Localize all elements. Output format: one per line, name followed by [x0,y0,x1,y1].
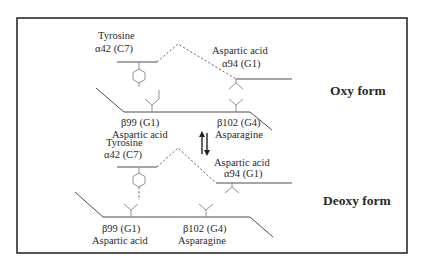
deoxy-form-label: Deoxy form [323,193,392,208]
deoxy-asp-alpha94-name: Aspartic acid [214,157,270,168]
oxy-form-label: Oxy form [330,83,387,98]
oxy-asp-alpha94-name: Aspartic acid [212,45,268,56]
deoxy-beta99-position: β99 (G1) [102,223,141,235]
oxy-beta99-position: β99 (G1) [121,117,160,129]
deoxy-beta99-name: Aspartic acid [92,235,148,246]
deoxy-beta102-name: Asparagine [178,235,226,246]
hemoglobin-contact-diagram: Tyrosine α42 (C7) Aspartic acid α94 (G1)… [0,0,423,268]
oxy-tyrosine-name: Tyrosine [98,30,135,41]
deoxy-tyrosine-name: Tyrosine [106,137,143,148]
oxy-beta102-name: Asparagine [215,129,263,140]
oxy-asp-alpha94-position: α94 (G1) [222,58,261,70]
diagram-stage: Tyrosine α42 (C7) Aspartic acid α94 (G1)… [0,0,423,268]
deoxy-beta102-position: β102 (G4) [183,223,227,235]
oxy-tyrosine-position: α42 (C7) [95,43,133,55]
deoxy-tyrosine-position: α42 (C7) [104,149,142,161]
oxy-beta102-position: β102 (G4) [217,117,261,129]
deoxy-asp-alpha94-position: α94 (G1) [224,168,263,180]
